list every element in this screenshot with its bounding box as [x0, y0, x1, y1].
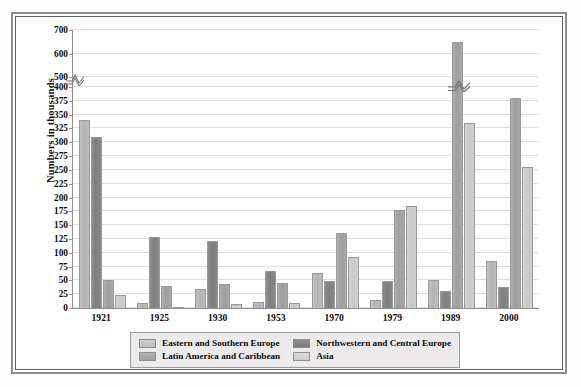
- y-axis-tick-label: 325: [54, 123, 68, 133]
- legend-swatch: [139, 352, 156, 361]
- bar-group: [306, 30, 364, 308]
- bar: [382, 281, 393, 308]
- x-axis-tick-label: 1953: [247, 312, 305, 323]
- x-axis-tick-label: 2000: [480, 312, 538, 323]
- chart-figure: Numbers in thousands 0255075100125150175…: [0, 0, 581, 387]
- legend-item: Eastern and Southern Europe: [139, 338, 293, 348]
- bar: [231, 304, 242, 308]
- bar: [195, 289, 206, 308]
- bar-group: [248, 30, 306, 308]
- bar: [440, 291, 451, 308]
- legend-label: Latin America and Caribbean: [162, 351, 280, 361]
- legend-swatch: [293, 352, 310, 361]
- bar: [207, 241, 218, 308]
- bar: [452, 42, 463, 308]
- y-axis-tick-label: 150: [54, 220, 68, 230]
- y-axis-tick-label: 125: [54, 234, 68, 244]
- bar: [324, 281, 335, 308]
- legend-label: Eastern and Southern Europe: [162, 338, 280, 348]
- chart-area: Numbers in thousands 0255075100125150175…: [20, 20, 558, 366]
- y-axis-tick-label: 200: [54, 193, 68, 203]
- legend-label: Asia: [316, 351, 333, 361]
- bar: [312, 273, 323, 308]
- x-axis-tick-label: 1989: [422, 312, 480, 323]
- y-axis-tick-label: 175: [54, 206, 68, 216]
- y-axis-tick-label: 100: [54, 248, 68, 258]
- y-axis-tick-label: 700: [54, 25, 68, 35]
- y-axis-tick-label: 50: [59, 275, 68, 285]
- bar: [137, 303, 148, 308]
- bar: [103, 280, 114, 308]
- y-axis-tick-label: 0: [63, 303, 68, 313]
- bar: [173, 307, 184, 309]
- bar: [428, 280, 439, 308]
- y-axis-tick-label: 350: [54, 110, 68, 120]
- legend-swatch: [293, 339, 310, 348]
- legend-swatch: [139, 339, 156, 348]
- bar: [289, 303, 300, 308]
- legend-item: Northwestern and Central Europe: [293, 338, 451, 348]
- x-axis-tick-label: 1930: [189, 312, 247, 323]
- bar: [464, 123, 475, 308]
- bar: [510, 98, 521, 308]
- y-axis-tick-label: 75: [59, 262, 68, 272]
- plot-area: 0255075100125150175200225250275300325350…: [72, 30, 539, 309]
- y-axis-tick-label: 250: [54, 165, 68, 175]
- bar-group: [364, 30, 422, 308]
- bar: [277, 283, 288, 308]
- y-axis-tick-label: 25: [59, 289, 68, 299]
- y-axis-tick-label: 225: [54, 179, 68, 189]
- y-axis-tick-mark: [69, 308, 73, 309]
- bar: [161, 286, 172, 308]
- bar-group: [190, 30, 248, 308]
- chart-legend: Eastern and Southern EuropeNorthwestern …: [130, 332, 460, 368]
- legend-label: Northwestern and Central Europe: [316, 338, 451, 348]
- bar-break-icon: [448, 78, 470, 92]
- bar-group: [131, 30, 189, 308]
- legend-item: Asia: [293, 351, 451, 361]
- bar: [370, 300, 381, 308]
- bar: [348, 257, 359, 308]
- bar: [91, 137, 102, 308]
- bar-group: [423, 30, 481, 308]
- x-axis-tick-label: 1979: [363, 312, 421, 323]
- bar: [149, 237, 160, 308]
- y-axis-tick-label: 300: [54, 137, 68, 147]
- y-axis-tick-label: 275: [54, 151, 68, 161]
- bar: [486, 261, 497, 308]
- y-axis-tick-label: 375: [54, 96, 68, 106]
- x-axis-tick-label: 1970: [305, 312, 363, 323]
- y-axis-tick-label: 600: [54, 49, 68, 59]
- x-axis-tick-label: 1921: [72, 312, 130, 323]
- bar: [522, 167, 533, 308]
- bar: [79, 120, 90, 308]
- x-axis-labels: 19211925193019531970197919892000: [72, 312, 538, 323]
- bar: [265, 271, 276, 308]
- bar: [336, 233, 347, 308]
- bar-group: [481, 30, 539, 308]
- x-axis-tick-label: 1925: [130, 312, 188, 323]
- bar: [115, 295, 126, 308]
- axis-break-icon: [66, 72, 84, 86]
- bar: [394, 210, 405, 308]
- bar: [498, 287, 509, 308]
- bar-groups: [73, 30, 539, 308]
- bar: [219, 284, 230, 308]
- bar: [253, 302, 264, 308]
- bar: [406, 206, 417, 308]
- legend-item: Latin America and Caribbean: [139, 351, 293, 361]
